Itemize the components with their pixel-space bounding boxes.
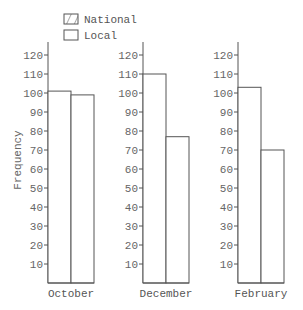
panel-december: 102030405060708090100110120December: [118, 42, 192, 300]
y-tick-label: 60: [30, 164, 43, 176]
y-tick-label: 90: [30, 107, 43, 119]
y-tick-label: 80: [125, 126, 138, 138]
y-tick-label: 50: [220, 183, 233, 195]
y-tick-label: 10: [125, 259, 138, 271]
y-tick-label: 70: [220, 145, 233, 157]
category-label: February: [235, 288, 288, 300]
y-tick-label: 60: [220, 164, 233, 176]
legend-label-local: Local: [84, 30, 117, 42]
legend: National Local: [64, 14, 137, 42]
y-tick-label: 50: [30, 183, 43, 195]
y-tick-label: 100: [23, 88, 43, 100]
bar-local-october: [71, 95, 94, 283]
legend-item-national: National: [64, 14, 137, 26]
bar-national-december: [143, 74, 166, 283]
y-axis-title: Frequency: [12, 130, 24, 190]
bar-national-october: [48, 91, 71, 283]
chart-panels: 102030405060708090100110120October102030…: [23, 42, 288, 300]
y-tick-label: 20: [30, 240, 43, 252]
bar-local-february: [261, 150, 284, 283]
y-tick-label: 20: [125, 240, 138, 252]
panel-february: 102030405060708090100110120February: [213, 42, 288, 300]
y-tick-label: 70: [30, 145, 43, 157]
y-tick-label: 90: [220, 107, 233, 119]
y-tick-label: 110: [118, 69, 138, 81]
bar-national-february: [238, 87, 261, 283]
legend-label-national: National: [84, 14, 137, 26]
y-tick-label: 80: [220, 126, 233, 138]
y-tick-label: 110: [23, 69, 43, 81]
y-tick-label: 40: [220, 202, 233, 214]
y-tick-label: 50: [125, 183, 138, 195]
panel-october: 102030405060708090100110120October: [23, 42, 94, 300]
y-tick-label: 70: [125, 145, 138, 157]
y-tick-label: 30: [220, 221, 233, 233]
y-tick-label: 30: [30, 221, 43, 233]
y-tick-label: 120: [213, 50, 233, 62]
y-tick-label: 40: [125, 202, 138, 214]
y-tick-label: 120: [118, 50, 138, 62]
y-tick-label: 90: [125, 107, 138, 119]
y-tick-label: 10: [220, 259, 233, 271]
y-tick-label: 60: [125, 164, 138, 176]
y-tick-label: 30: [125, 221, 138, 233]
category-label: October: [48, 288, 94, 300]
y-tick-label: 40: [30, 202, 43, 214]
y-tick-label: 100: [213, 88, 233, 100]
category-label: December: [140, 288, 193, 300]
legend-item-local: Local: [64, 30, 117, 42]
legend-swatch-plain-icon: [64, 30, 78, 40]
y-tick-label: 80: [30, 126, 43, 138]
bar-chart: National Local Frequency 102030405060708…: [0, 0, 303, 310]
legend-swatch-hatch-icon: [64, 14, 78, 24]
y-tick-label: 10: [30, 259, 43, 271]
bar-local-december: [166, 137, 189, 283]
y-tick-label: 120: [23, 50, 43, 62]
y-tick-label: 110: [213, 69, 233, 81]
y-tick-label: 100: [118, 88, 138, 100]
y-tick-label: 20: [220, 240, 233, 252]
